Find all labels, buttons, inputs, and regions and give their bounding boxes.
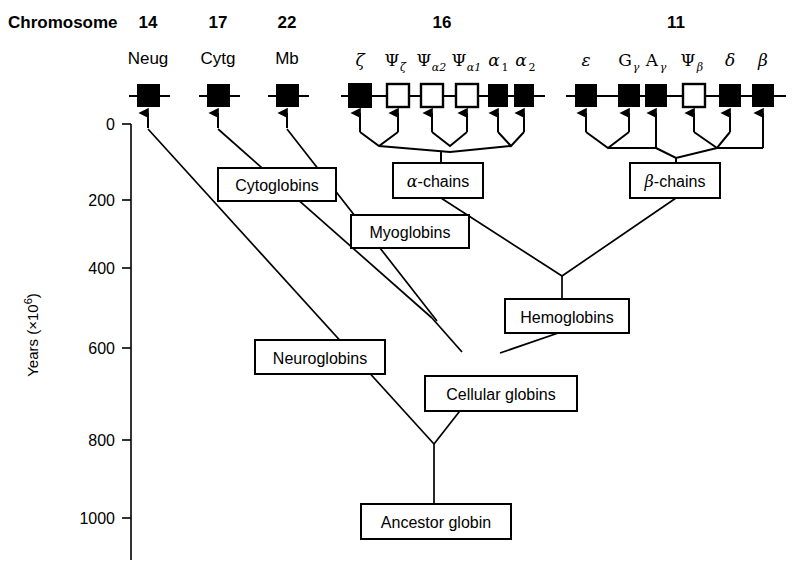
y-tick-label-1000: 1000	[79, 510, 115, 527]
chromosome-number-17: 17	[209, 13, 228, 32]
beta-chains-rest: -chains	[654, 173, 706, 190]
beta-vee-1	[586, 132, 629, 148]
beta-crossbar-mid	[656, 148, 717, 158]
node-box-hemoglobins[interactable]: Hemoglobins	[505, 299, 629, 333]
psi-glyph: Ψ	[417, 50, 432, 70]
gene-box-delta	[720, 85, 740, 106]
node-box-ancestor-globin[interactable]: Ancestor globin	[361, 504, 511, 539]
y-axis: 0 200 400 600 800 1000 Years (×106)	[22, 116, 131, 560]
beta-cluster-fan	[586, 113, 763, 163]
y-axis-title-close: )	[24, 293, 41, 298]
alpha-chains-greek: α	[407, 172, 418, 191]
branch-beta-to-hemoglobins	[562, 198, 676, 276]
gene-box-alpha1	[489, 85, 507, 106]
gene-label-g-gamma: G γ	[618, 50, 640, 74]
gene-box-psi-alpha1	[456, 84, 478, 107]
page-title: Chromosome	[8, 13, 118, 32]
y-tick-label-800: 800	[88, 432, 115, 449]
ancestor-globin-label: Ancestor globin	[381, 514, 491, 531]
hemoglobins-label: Hemoglobins	[520, 309, 613, 326]
gene-box-a-gamma	[646, 85, 666, 106]
psi-zeta-subscript: ζ	[400, 61, 407, 74]
gene-label-zeta: ζ	[355, 50, 366, 70]
chromosome-number-14: 14	[139, 13, 158, 32]
gene-box-psi-alpha2	[421, 84, 443, 107]
gene-label-neug: Neug	[128, 49, 169, 68]
psi-glyph: Ψ	[452, 50, 467, 70]
alpha-vee-1	[360, 132, 398, 146]
y-axis-title: Years (×106)	[22, 293, 41, 377]
gene-label-psi-zeta: Ψ ζ	[385, 50, 407, 74]
gene-label-cytg: Cytg	[201, 49, 236, 68]
beta-chains-greek: β	[644, 172, 654, 191]
y-tick-label-0: 0	[106, 116, 115, 133]
alpha-crossbar	[379, 146, 511, 152]
node-box-myoglobins[interactable]: Myoglobins	[351, 215, 469, 248]
alpha1-subscript: 1	[502, 61, 509, 74]
y-tick-label-200: 200	[88, 192, 115, 209]
node-box-alpha-chains[interactable]: α-chains	[393, 163, 483, 198]
globin-evolution-diagram: Chromosome 14 17 22 16 11 Neug Cytg Mb ζ…	[0, 0, 805, 572]
y-axis-title-main: Years (×10	[24, 304, 41, 376]
svg-text:α-chains: α-chains	[407, 172, 469, 191]
alpha-vee-3	[498, 132, 524, 146]
branch-to-cellular-globins-left	[432, 318, 462, 352]
gene-box-mb	[277, 85, 298, 106]
psi-glyph: Ψ	[681, 50, 696, 70]
gene-label-a-gamma: A γ	[645, 50, 667, 74]
alpha2-subscript: 2	[529, 61, 536, 74]
g-glyph: G	[618, 50, 632, 70]
gene-label-mb: Mb	[275, 49, 299, 68]
neuroglobins-label: Neuroglobins	[273, 350, 367, 367]
gene-label-beta: β	[757, 50, 768, 70]
gene-box-psi-beta	[683, 84, 705, 107]
gene-box-alpha2	[515, 85, 533, 106]
svg-text:Years (×106): Years (×106)	[22, 293, 41, 377]
gene-box-epsilon	[576, 85, 596, 106]
chromosome-number-11: 11	[667, 13, 685, 32]
chromosome-number-16: 16	[433, 13, 452, 32]
alpha-vee-2	[432, 132, 467, 146]
gene-label-psi-alpha2: Ψ α2	[417, 50, 447, 74]
alpha-glyph: α	[488, 50, 500, 70]
node-box-beta-chains[interactable]: β-chains	[630, 163, 720, 198]
chromosome-number-22: 22	[278, 13, 297, 32]
svg-text:β-chains: β-chains	[644, 172, 706, 191]
gene-label-delta: δ	[725, 50, 735, 70]
gene-box-g-gamma	[619, 85, 639, 106]
psi-glyph: Ψ	[385, 50, 400, 70]
gene-box-psi-zeta	[387, 84, 409, 107]
gene-box-neug	[138, 85, 159, 106]
psi-beta-subscript: β	[696, 61, 703, 74]
branch-hemoglobins-to-cellular	[500, 331, 564, 353]
node-box-cytoglobins[interactable]: Cytoglobins	[218, 168, 336, 201]
gene-label-psi-beta: Ψ β	[681, 50, 704, 74]
psi-alpha1-subscript: α1	[467, 61, 481, 74]
y-tick-label-600: 600	[88, 340, 115, 357]
gene-label-alpha2: α 2	[515, 50, 535, 74]
gene-box-beta	[753, 85, 773, 106]
beta-vee-2	[694, 132, 730, 148]
gene-label-psi-alpha1: Ψ α1	[452, 50, 482, 74]
a-gamma-subscript: γ	[660, 61, 667, 74]
psi-alpha2-subscript: α2	[432, 61, 446, 74]
alpha-glyph: α	[515, 50, 527, 70]
single-gene-arrows	[148, 113, 287, 128]
gene-box-cytg	[208, 85, 229, 106]
gene-label-epsilon: ε	[581, 50, 590, 70]
a-glyph: A	[645, 50, 659, 70]
myoglobins-label: Myoglobins	[370, 224, 451, 241]
gene-box-zeta	[349, 84, 371, 107]
gene-label-alpha1: α 1	[488, 50, 508, 74]
alpha-chains-rest: -chains	[418, 173, 470, 190]
node-box-cellular-globins[interactable]: Cellular globins	[425, 376, 577, 411]
cellular-globins-label: Cellular globins	[446, 386, 555, 403]
cytoglobins-label: Cytoglobins	[235, 177, 319, 194]
y-tick-label-400: 400	[88, 260, 115, 277]
alpha-cluster-fan	[360, 113, 524, 163]
g-gamma-subscript: γ	[633, 61, 640, 74]
node-box-neuroglobins[interactable]: Neuroglobins	[255, 340, 385, 374]
